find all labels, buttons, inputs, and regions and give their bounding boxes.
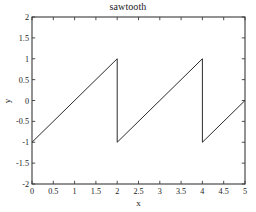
x-tick-label: 2.5 — [133, 187, 143, 196]
y-tick-label: 1 — [25, 55, 29, 64]
plot-area: 00.511.522.533.544.55 -2-1.5-1-0.500.511… — [0, 0, 256, 212]
x-tick-label: 4 — [200, 187, 204, 196]
y-tick-label: -1.5 — [16, 159, 29, 168]
x-tick-label: 0.5 — [48, 187, 58, 196]
x-axis-label: x — [136, 198, 141, 208]
y-axis-label: y — [2, 98, 12, 103]
x-tick-label: 5 — [243, 187, 247, 196]
x-tick-label: 3 — [158, 187, 162, 196]
x-axis-tick-labels: 00.511.522.533.544.55 — [30, 187, 247, 196]
x-tick-label: 0 — [30, 187, 34, 196]
x-tick-label: 4.5 — [219, 187, 229, 196]
y-tick-label: 2 — [25, 13, 29, 22]
x-tick-label: 3.5 — [176, 187, 186, 196]
y-tick-label: -1 — [22, 138, 29, 147]
y-tick-label: -2 — [22, 180, 29, 189]
y-tick-label: -0.5 — [16, 117, 29, 126]
y-tick-label: 0 — [25, 97, 29, 106]
figure-canvas: sawtooth 00.511.522.533.544.55 -2-1.5-1-… — [0, 0, 256, 212]
x-tick-label: 1 — [73, 187, 77, 196]
y-tick-label: 0.5 — [19, 76, 29, 85]
x-tick-label: 2 — [115, 187, 119, 196]
y-axis-tick-labels: -2-1.5-1-0.500.511.52 — [16, 13, 29, 189]
y-tick-label: 1.5 — [19, 34, 29, 43]
x-tick-label: 1.5 — [91, 187, 101, 196]
axes-frame — [32, 17, 245, 184]
